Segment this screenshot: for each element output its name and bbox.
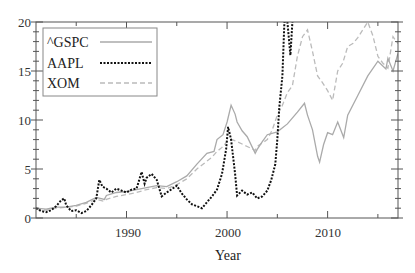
x-axis-tick-labels: 1990 2000 2010 <box>115 225 341 240</box>
x-tick-label: 1990 <box>115 225 141 240</box>
y-tick-label: 10 <box>18 113 31 128</box>
legend-label-gspc: ^GSPC <box>47 35 89 50</box>
y-tick-label: 5 <box>25 162 32 177</box>
y-axis-tick-labels: 0 5 10 15 20 <box>18 15 31 226</box>
x-axis-title: Year <box>215 248 241 263</box>
legend: ^GSPC AAPL XOM <box>43 28 157 96</box>
line-chart: 1990 2000 2010 0 5 10 15 20 Year ^GSPC A… <box>0 0 415 273</box>
legend-label-xom: XOM <box>47 76 80 91</box>
x-tick-label: 2000 <box>215 225 241 240</box>
y-tick-label: 15 <box>18 64 31 79</box>
y-tick-label: 0 <box>25 211 32 226</box>
y-tick-label: 20 <box>18 15 31 30</box>
legend-label-aapl: AAPL <box>47 56 84 71</box>
x-tick-label: 2010 <box>315 225 341 240</box>
